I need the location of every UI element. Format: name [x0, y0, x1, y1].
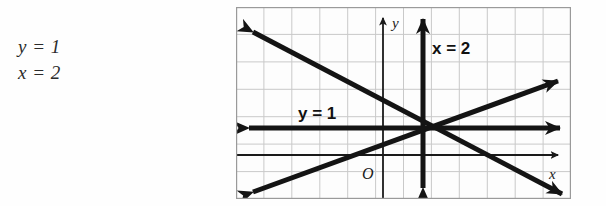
solution-equations: y = 1 x = 2 [18, 34, 168, 86]
graph-canvas: y = 1 x = 2 y x O [236, 7, 571, 199]
worksheet-figure: y = 1 x = 2 [0, 0, 606, 206]
label-x-equals-2: x = 2 [432, 39, 470, 58]
label-origin: O [362, 165, 374, 182]
label-y-equals-1: y = 1 [298, 104, 336, 123]
coordinate-graph: y = 1 x = 2 y x O [236, 7, 571, 199]
label-axis-y: y [390, 15, 399, 31]
equation-line-1: y = 1 [18, 34, 168, 60]
equation-line-2: x = 2 [18, 60, 168, 86]
label-axis-x: x [548, 166, 556, 182]
